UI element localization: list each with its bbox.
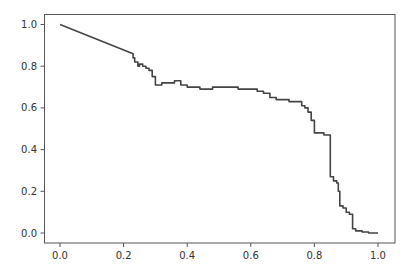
axes-frame (45, 15, 396, 244)
x-tick-label: 0.6 (243, 250, 259, 261)
y-tick-label: 0.4 (21, 144, 37, 155)
data-series-curve (60, 25, 378, 234)
x-tick-label: 1.0 (370, 250, 386, 261)
y-tick-label: 0.6 (21, 102, 37, 113)
y-tick-label: 0.2 (21, 186, 37, 197)
x-axis: 0.00.20.40.60.81.0 (52, 243, 386, 261)
y-tick-label: 0.8 (21, 61, 37, 72)
x-tick-label: 0.4 (179, 250, 195, 261)
x-tick-label: 0.8 (306, 250, 322, 261)
line-chart: 0.00.20.40.60.81.0 0.00.20.40.60.81.0 (0, 0, 412, 279)
y-axis: 0.00.20.40.60.81.0 (21, 19, 44, 239)
y-tick-label: 0.0 (21, 228, 37, 239)
x-tick-label: 0.2 (116, 250, 132, 261)
y-tick-label: 1.0 (21, 19, 37, 30)
x-tick-label: 0.0 (52, 250, 68, 261)
